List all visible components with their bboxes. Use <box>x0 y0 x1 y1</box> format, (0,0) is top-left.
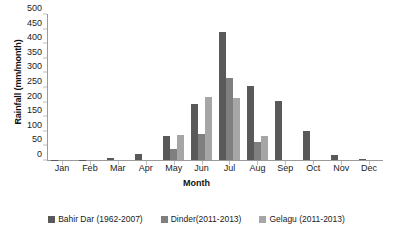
bar <box>226 78 233 160</box>
x-axis-tick-label: Aug <box>243 163 271 173</box>
y-axis-ticks: 500450400350300250200150100500 <box>0 8 45 154</box>
x-axis-line <box>47 160 383 161</box>
y-axis-tick-label: 0 <box>37 150 42 159</box>
x-axis-tick-label: Jun <box>188 163 216 173</box>
legend-label: Gelagu (2011-2013) <box>269 214 344 224</box>
y-axis-tick-label: 300 <box>27 62 42 71</box>
x-axis-tick-label: Feb <box>76 163 104 173</box>
y-axis-tick-label: 150 <box>27 106 42 115</box>
bar <box>254 142 261 160</box>
bar-group <box>355 14 383 160</box>
y-axis-tick-label: 50 <box>32 135 42 144</box>
bar-group <box>160 14 188 160</box>
legend-item[interactable]: Gelagu (2011-2013) <box>259 214 344 224</box>
bar-group <box>216 14 244 160</box>
bar <box>233 98 240 160</box>
bar-group <box>132 14 160 160</box>
bar-group <box>299 14 327 160</box>
x-axis-tick-label: Nov <box>327 163 355 173</box>
x-axis-tick-label: Jul <box>216 163 244 173</box>
rainfall-bar-chart: Rainfall (mm/month) 50045040035030025020… <box>0 0 393 240</box>
y-axis-tick-label: 250 <box>27 77 42 86</box>
x-axis-tick-label: May <box>160 163 188 173</box>
x-axis-tick-label: Jan <box>48 163 76 173</box>
x-axis-tick-label: Mar <box>104 163 132 173</box>
y-axis-tick-mark <box>43 160 47 161</box>
x-axis-title: Month <box>0 178 393 188</box>
bar-group <box>76 14 104 160</box>
bar-group <box>48 14 76 160</box>
bar-group <box>271 14 299 160</box>
y-axis-tick-label: 100 <box>27 120 42 129</box>
bar <box>261 136 268 160</box>
bar-group <box>188 14 216 160</box>
legend-label: Bahir Dar (1962-2007) <box>58 214 143 224</box>
bar-group <box>327 14 355 160</box>
legend-swatch <box>48 216 55 223</box>
bar <box>247 86 254 160</box>
x-axis-tick-label: Sep <box>271 163 299 173</box>
bar-groups <box>48 14 383 160</box>
bar <box>275 101 282 160</box>
bar-group <box>104 14 132 160</box>
legend-swatch <box>259 216 266 223</box>
chart-legend: Bahir Dar (1962-2007)Dinder(2011-2013)Ge… <box>0 214 393 224</box>
x-axis-tick-label: Oct <box>299 163 327 173</box>
x-axis-labels: JanFebMarAprMayJunJulAugSepOctNovDec <box>48 163 383 173</box>
legend-item[interactable]: Dinder(2011-2013) <box>161 214 242 224</box>
legend-label: Dinder(2011-2013) <box>171 214 242 224</box>
bar <box>198 134 205 160</box>
bar <box>135 154 142 160</box>
y-axis-tick-label: 400 <box>27 33 42 42</box>
y-axis-tick-label: 450 <box>27 18 42 27</box>
bar <box>191 104 198 160</box>
bar <box>205 97 212 160</box>
bar <box>303 131 310 160</box>
bar <box>163 136 170 160</box>
bar <box>170 149 177 160</box>
y-axis-tick-label: 500 <box>27 4 42 13</box>
bar-group <box>243 14 271 160</box>
bar <box>219 32 226 160</box>
y-axis-tick-label: 350 <box>27 47 42 56</box>
plot-area <box>47 14 383 160</box>
y-axis-tick-label: 200 <box>27 91 42 100</box>
bar <box>107 158 114 160</box>
bar <box>177 135 184 160</box>
x-axis-tick-label: Dec <box>355 163 383 173</box>
bar <box>359 159 366 160</box>
legend-item[interactable]: Bahir Dar (1962-2007) <box>48 214 143 224</box>
legend-swatch <box>161 216 168 223</box>
x-axis-tick-label: Apr <box>132 163 160 173</box>
bar <box>331 155 338 160</box>
